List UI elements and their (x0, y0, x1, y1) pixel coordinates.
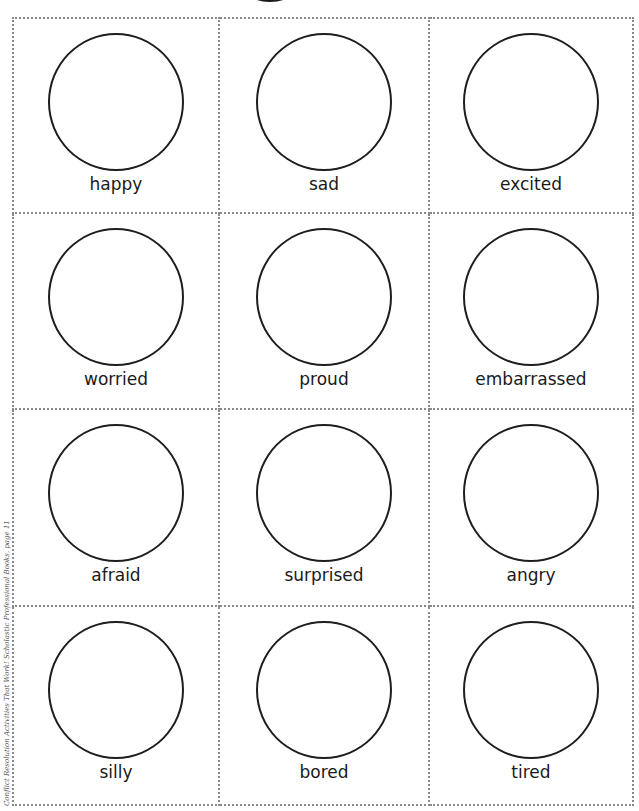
card-surprised: surprised (220, 410, 430, 607)
blank-face-circle (463, 621, 599, 759)
blank-face-circle (256, 228, 392, 366)
card-afraid: afraid (12, 410, 220, 607)
card-worried: worried (12, 214, 220, 410)
blank-face-circle (463, 228, 599, 366)
card-label: surprised (220, 565, 428, 585)
blank-face-circle (256, 33, 392, 171)
card-tired: tired (430, 607, 634, 806)
card-label: bored (220, 762, 428, 782)
card-label: happy (14, 174, 218, 194)
card-angry: angry (430, 410, 634, 607)
card-label: worried (14, 369, 218, 389)
card-label: proud (220, 369, 428, 389)
card-embarrassed: embarrassed (430, 214, 634, 410)
blank-face-circle (256, 424, 392, 562)
title-fragment (250, 0, 290, 2)
card-label: embarrassed (430, 369, 632, 389)
card-label: afraid (14, 565, 218, 585)
card-happy: happy (12, 17, 220, 214)
card-bored: bored (220, 607, 430, 806)
blank-face-circle (463, 33, 599, 171)
card-excited: excited (430, 17, 634, 214)
blank-face-circle (256, 621, 392, 759)
card-label: excited (430, 174, 632, 194)
blank-face-circle (48, 621, 184, 759)
card-label: angry (430, 565, 632, 585)
blank-face-circle (48, 228, 184, 366)
card-silly: silly (12, 607, 220, 806)
blank-face-circle (48, 33, 184, 171)
blank-face-circle (48, 424, 184, 562)
card-label: silly (14, 762, 218, 782)
card-sad: sad (220, 17, 430, 214)
card-label: tired (430, 762, 632, 782)
card-proud: proud (220, 214, 430, 410)
card-label: sad (220, 174, 428, 194)
feelings-card-grid: happy sad excited worried proud embarras… (12, 17, 634, 806)
blank-face-circle (463, 424, 599, 562)
publisher-credit: Conflict Resolution Activities That Work… (3, 596, 11, 806)
